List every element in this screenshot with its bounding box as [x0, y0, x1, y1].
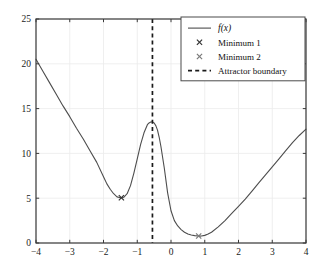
legend-entry-label: Minimum 1 — [218, 38, 261, 48]
y-tick-label: 20 — [22, 59, 32, 69]
x-tick-label: 3 — [270, 247, 275, 257]
chart-figure: −4−3−2−101234 0510152025 f(x)Minimum 1Mi… — [0, 0, 320, 271]
legend: f(x)Minimum 1Minimum 2Attractor boundary — [181, 17, 305, 81]
x-tick-label: 1 — [202, 247, 207, 257]
x-tick-label: −3 — [65, 247, 75, 257]
y-tick-label: 0 — [26, 238, 31, 248]
x-tick-label: −4 — [31, 247, 41, 257]
y-tick-label: 25 — [22, 14, 32, 24]
x-tick-label: 0 — [169, 247, 174, 257]
x-tick-label: −1 — [132, 247, 142, 257]
legend-entry-label: Attractor boundary — [218, 66, 287, 76]
function-plot-svg: −4−3−2−101234 0510152025 f(x)Minimum 1Mi… — [0, 0, 320, 271]
x-tick-label: 2 — [236, 247, 241, 257]
legend-entry-label: Minimum 2 — [218, 52, 261, 62]
x-tick-label: 4 — [304, 247, 309, 257]
legend-entry-label: f(x) — [218, 23, 231, 34]
y-tick-label: 10 — [22, 149, 32, 159]
x-tick-label: −2 — [98, 247, 108, 257]
y-tick-label: 5 — [26, 194, 31, 204]
y-tick-label: 15 — [22, 104, 32, 114]
